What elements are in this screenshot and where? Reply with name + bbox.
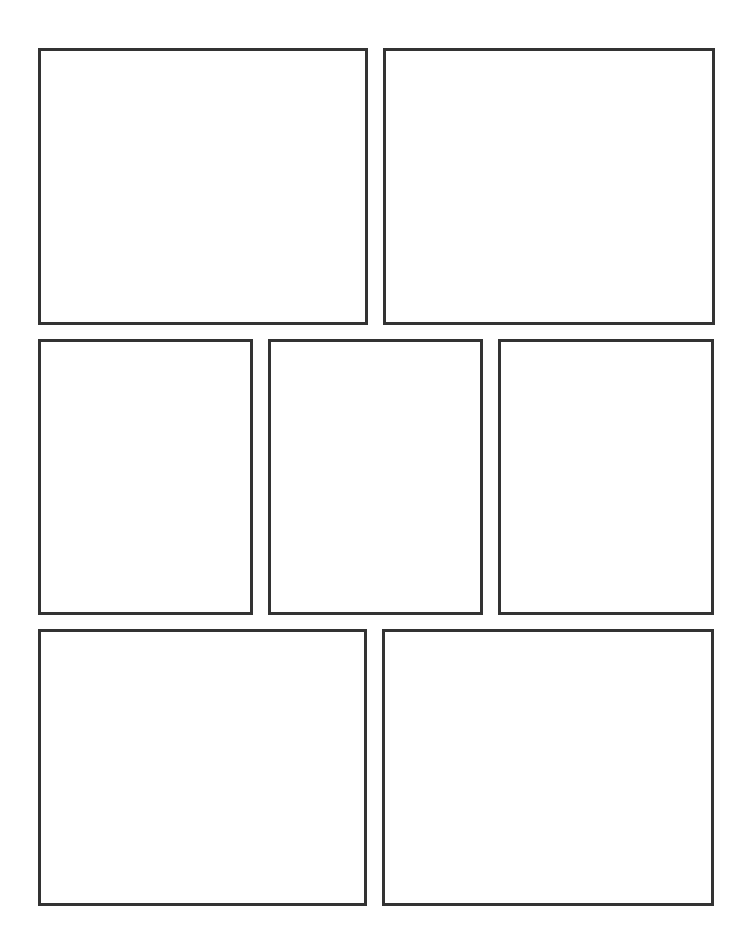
comic-panel (38, 339, 253, 615)
comic-panel (38, 48, 368, 325)
comic-panel (383, 48, 715, 325)
comic-panel (38, 629, 367, 906)
comic-panel (498, 339, 714, 615)
comic-panel (268, 339, 483, 615)
comic-panel (382, 629, 714, 906)
